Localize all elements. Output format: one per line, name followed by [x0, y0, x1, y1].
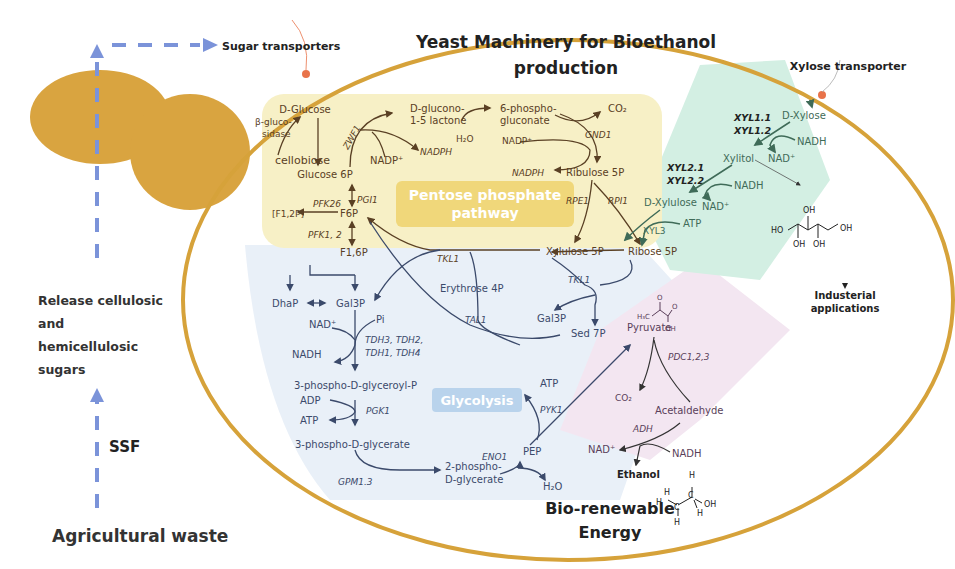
pyk1: PYK1 — [540, 405, 563, 415]
tkl1-a: TKL1 — [437, 254, 459, 264]
ribulose-5p: Ribulose 5P — [566, 167, 624, 178]
arrow-down-icon — [842, 283, 848, 289]
ethanol-h2: H — [656, 498, 662, 507]
f16p: F1,6P — [340, 247, 368, 258]
nad-plus-ferment: NAD⁺ — [588, 444, 615, 455]
atp-glyco-2: ATP — [540, 378, 558, 389]
nadh-xyl-2: NADH — [734, 180, 764, 191]
atp-xyl: ATP — [683, 218, 701, 229]
arrow-up-icon — [90, 44, 104, 58]
h2o-glyco: H₂O — [543, 481, 563, 492]
acetaldehyde: Acetaldehyde — [655, 405, 723, 416]
nadh-glyco: NADH — [292, 349, 322, 360]
pyruvate-o2: O — [672, 303, 678, 311]
adp: ADP — [300, 395, 321, 406]
ethanol-h5: H — [697, 509, 703, 518]
nadh-xyl-1: NADH — [797, 136, 827, 147]
glucose-6p: Glucose 6P — [297, 169, 352, 180]
pgk1: PGK1 — [366, 406, 390, 416]
cellobiose: cellobiose — [275, 154, 330, 167]
release-sugars-line4: sugars — [38, 362, 85, 377]
dhap: DhaP — [272, 298, 298, 309]
nadp-plus-1: NADP⁺ — [370, 155, 403, 166]
xylitol-oh-b1: OH — [793, 240, 805, 249]
ethanol-h3: H — [674, 518, 680, 527]
xyl22: XYL2.2 — [666, 175, 704, 186]
co2-ferment: CO₂ — [615, 393, 632, 403]
xylitol: Xylitol — [723, 153, 754, 164]
ethanol-h1: H — [664, 488, 670, 497]
bioethanol-diagram: Pentose phosphate pathway Glycolysis Sug… — [0, 0, 955, 569]
gpm: GPM1.3 — [338, 477, 373, 487]
atp-glyco-1: ATP — [300, 415, 318, 426]
pep: PEP — [523, 446, 541, 457]
rpe1: RPE1 — [566, 196, 589, 206]
pfk12: PFK1, 2 — [308, 230, 342, 240]
beta-glucosidase-1: β-gluco- — [255, 117, 292, 127]
tkl1-b: TKL1 — [568, 275, 590, 285]
xylitol-oh-top: OH — [803, 206, 815, 215]
industrial-applications-line1: Industerial — [814, 290, 875, 301]
ethanol: Ethanol — [617, 469, 660, 480]
d-glucono-1: D-glucono- — [410, 103, 465, 114]
ethanol-oh: OH — [704, 500, 716, 509]
sugar-transporter-dot — [302, 70, 310, 78]
tdh-2: TDH1, TDH4 — [365, 348, 421, 358]
tal1: TAL1 — [465, 315, 487, 325]
phosphogluconate-1: 6-phospho- — [500, 103, 557, 114]
xyl12: XYL1.2 — [733, 125, 771, 136]
gal3p-b: Gal3P — [537, 313, 566, 324]
pgi1: PGI1 — [357, 195, 378, 205]
xyl11: XYL1.1 — [733, 112, 771, 123]
gal3p: Gal3P — [336, 298, 365, 309]
pyruvate-o1: O — [657, 294, 663, 302]
bpg: 3-phospho-D-glyceroyl-P — [294, 380, 417, 391]
xylitol-oh-right: OH — [840, 224, 852, 233]
nadph-1: NADPH — [420, 147, 452, 157]
f6p: F6P — [340, 208, 358, 219]
diagram-title-line1: Yeast Machinery for Bioethanol — [415, 32, 716, 52]
eno1: ENO1 — [482, 452, 507, 462]
pyruvate-h3c: H₃C — [637, 313, 650, 321]
d-glucose: D-Glucose — [279, 104, 331, 115]
2-phosphoglycerate-1: 2-phospho- — [445, 461, 502, 472]
pi: Pi — [376, 314, 385, 325]
xylose-transporter-dot — [818, 91, 826, 99]
d-xylose: D-Xylose — [782, 110, 826, 121]
2-phosphoglycerate-2: D-glycerate — [445, 474, 503, 485]
3-phosphoglycerate: 3-phospho-D-glycerate — [295, 439, 410, 450]
bio-renewable-line2: Energy — [579, 523, 643, 542]
nad-plus-xyl-1: NAD⁺ — [768, 153, 795, 164]
nadph-2: NADPH — [512, 168, 544, 178]
diagram-title-line2: production — [514, 58, 618, 78]
pyruvate-oh: OH — [665, 325, 676, 333]
ethanol-h4: H — [689, 471, 695, 480]
ethanol-c2: C — [688, 491, 694, 500]
d-glucono-2: 1-5 lactone — [410, 115, 466, 126]
d-xylulose: D-Xylulose — [644, 197, 697, 208]
pfk26: PFK26 — [313, 199, 341, 209]
arrow-up-icon — [90, 388, 104, 402]
agricultural-waste-label: Agricultural waste — [52, 526, 228, 546]
industrial-applications-line2: applications — [811, 303, 880, 314]
xylitol-oh-b2: OH — [813, 240, 825, 249]
tdh-1: TDH3, TDH2, — [365, 335, 423, 345]
rpi1: RPI1 — [608, 196, 628, 206]
pdc: PDC1,2,3 — [668, 352, 710, 362]
ribose-5p: Ribose 5P — [628, 246, 677, 257]
xylitol-ho-left: HO — [771, 226, 783, 235]
ethanol-c1: C — [674, 503, 680, 512]
sugar-transporters-label: Sugar transporters — [222, 40, 341, 53]
release-sugars-line1: Release cellulosic — [38, 293, 163, 308]
yeast-cell-shape — [30, 70, 250, 210]
phosphogluconate-2: gluconate — [500, 115, 550, 126]
ppp-label-1: Pentose phosphate — [409, 187, 561, 203]
ppp-label-2: pathway — [451, 205, 518, 221]
f12p: [F1,2P] — [272, 209, 304, 219]
sed-7p: Sed 7P — [571, 328, 605, 339]
gnd1: GND1 — [585, 130, 611, 140]
xylose-transporter-label: Xylose transporter — [790, 60, 907, 73]
release-sugars-line3: hemicellulosic — [38, 339, 138, 354]
nadh-ferment: NADH — [672, 448, 702, 459]
release-sugars-line2: and — [38, 316, 64, 331]
